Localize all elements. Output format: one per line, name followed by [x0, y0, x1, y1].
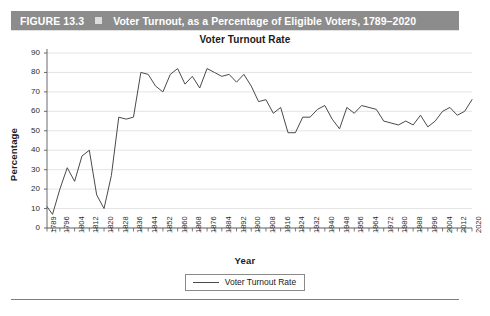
x-axis-tick-label: 1916 — [284, 216, 292, 233]
y-axis-tick-label: 30 — [18, 166, 40, 174]
x-axis-tick-label: 1948 — [343, 216, 351, 233]
x-axis-tick-label: 1972 — [387, 216, 395, 233]
y-axis-tick-label: 10 — [18, 205, 40, 213]
square-bullet-icon — [95, 17, 102, 24]
figure-number-label: FIGURE 13.3 — [20, 15, 84, 27]
x-axis-tick-label: 1868 — [195, 216, 203, 233]
x-axis-tick-label: 1932 — [313, 216, 321, 233]
x-axis-tick-label: 1836 — [136, 216, 144, 233]
x-axis-tick-label: 2020 — [475, 216, 483, 233]
figure-header-bar: FIGURE 13.3 Voter Turnout, as a Percenta… — [11, 11, 459, 30]
y-axis-tick-label: 90 — [18, 49, 40, 57]
legend-box: Voter Turnout Rate — [185, 274, 305, 291]
legend-line-swatch — [193, 282, 219, 283]
x-axis-tick-label: 1804 — [78, 216, 86, 233]
line-chart-plot — [0, 31, 490, 293]
x-axis-tick-label: 2004 — [446, 216, 454, 233]
chart-legend: Voter Turnout Rate — [0, 274, 490, 291]
y-axis-tick-label: 20 — [18, 185, 40, 193]
x-axis-tick-label: 1964 — [372, 216, 380, 233]
x-axis-tick-label: 1876 — [210, 216, 218, 233]
x-axis-tick-label: 1924 — [298, 216, 306, 233]
x-axis-tick-label: 1980 — [401, 216, 409, 233]
x-axis-tick-label: 1996 — [431, 216, 439, 233]
x-axis-tick-label: 1844 — [151, 216, 159, 233]
legend-label: Voter Turnout Rate — [225, 277, 296, 287]
y-axis-tick-label: 60 — [18, 107, 40, 115]
y-axis-tick-label: 50 — [18, 127, 40, 135]
chart-container: Voter Turnout Rate Percentage Year Voter… — [0, 31, 490, 293]
x-axis-tick-label: 1900 — [254, 216, 262, 233]
x-axis-tick-label: 1892 — [240, 216, 248, 233]
x-axis-tick-label: 1860 — [181, 216, 189, 233]
x-axis-tick-label: 1940 — [328, 216, 336, 233]
x-axis-tick-label: 1796 — [63, 216, 71, 233]
x-axis-tick-label: 1908 — [269, 216, 277, 233]
x-axis-label: Year — [0, 255, 490, 266]
x-axis-tick-label: 1820 — [107, 216, 115, 233]
y-axis-tick-label: 40 — [18, 146, 40, 154]
x-axis-tick-label: 2012 — [460, 216, 468, 233]
y-axis-tick-label: 0 — [18, 224, 40, 232]
y-axis-tick-label: 70 — [18, 88, 40, 96]
figure-caption: Voter Turnout, as a Percentage of Eligib… — [113, 15, 416, 27]
x-axis-tick-label: 1852 — [166, 216, 174, 233]
x-axis-tick-label: 1988 — [416, 216, 424, 233]
x-axis-tick-label: 1884 — [225, 216, 233, 233]
x-axis-tick-label: 1789 — [50, 216, 58, 233]
footer-divider — [11, 299, 459, 300]
x-axis-tick-label: 1956 — [357, 216, 365, 233]
y-axis-tick-label: 80 — [18, 68, 40, 76]
x-axis-tick-label: 1828 — [122, 216, 130, 233]
x-axis-tick-label: 1812 — [92, 216, 100, 233]
